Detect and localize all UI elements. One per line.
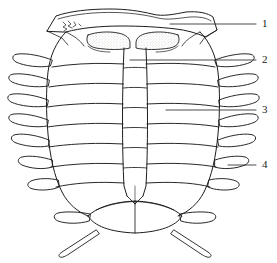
callout-label-1: 1 xyxy=(262,18,268,29)
pleural-spines-right xyxy=(208,54,259,190)
caudal-rami xyxy=(59,230,211,257)
callout-label-3: 3 xyxy=(262,104,268,115)
arthropod-line-drawing xyxy=(0,0,277,263)
callout-label-2: 2 xyxy=(262,54,268,65)
pygidium xyxy=(88,201,182,233)
cephalon-plate xyxy=(47,9,217,45)
pleural-spines-left xyxy=(8,54,59,190)
thoracic-segments xyxy=(48,63,220,187)
callout-label-4: 4 xyxy=(262,159,268,170)
axial-ridge xyxy=(123,48,148,204)
eye-lobe-right xyxy=(136,32,179,50)
figure-container: 1 2 3 4 xyxy=(0,0,277,263)
eye-lobe-left xyxy=(87,32,130,50)
